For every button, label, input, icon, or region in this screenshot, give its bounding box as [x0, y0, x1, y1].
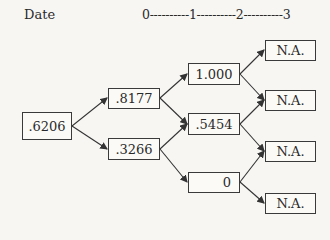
- node-date1-up: .8177: [108, 88, 160, 109]
- node-date2-mid: .5454: [188, 113, 240, 135]
- node-date3-2: N.A.: [265, 90, 316, 111]
- node-date0: .6206: [22, 112, 72, 140]
- node-date2-up: 1.000: [188, 63, 240, 85]
- node-date2-down: 0: [188, 172, 240, 193]
- node-date3-1: N.A.: [265, 40, 316, 61]
- node-date3-4: N.A.: [265, 193, 316, 214]
- node-date1-down: .3266: [108, 138, 160, 160]
- node-date3-3: N.A.: [265, 141, 316, 162]
